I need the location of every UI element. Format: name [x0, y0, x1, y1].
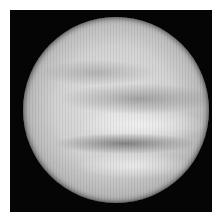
planet-disk — [23, 17, 209, 203]
image-frame — [10, 10, 212, 212]
scanline-texture — [23, 17, 209, 203]
